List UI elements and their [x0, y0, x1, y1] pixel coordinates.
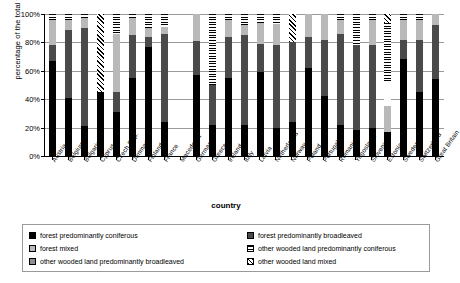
stacked-bar[interactable]	[400, 14, 407, 156]
stacked-bar[interactable]	[416, 14, 423, 156]
bar-slot	[109, 14, 125, 156]
bar-segment	[321, 14, 328, 40]
bar-segment	[145, 14, 152, 28]
stacked-bar[interactable]	[81, 14, 88, 156]
stacked-bar[interactable]	[321, 14, 328, 156]
bar-segment	[49, 45, 56, 61]
bar-segment	[161, 34, 168, 122]
legend-label: forest mixed	[40, 245, 78, 252]
bar-segment	[209, 14, 216, 85]
legend-label: forest predominantly broadleaved	[258, 232, 362, 239]
stacked-bar[interactable]	[161, 14, 168, 156]
legend-label: other wooded land mixed	[258, 258, 336, 265]
bar-slot	[157, 14, 173, 156]
legend-swatch-icon	[247, 258, 254, 265]
y-axis-tick-label: 40%	[16, 95, 40, 104]
bar-slot	[412, 14, 428, 156]
stacked-bar[interactable]	[113, 14, 120, 156]
bar-series-container	[45, 14, 444, 156]
bar-slot	[77, 14, 93, 156]
bar-segment	[209, 85, 216, 125]
stacked-bar[interactable]	[273, 14, 280, 156]
bar-segment	[337, 20, 344, 34]
stacked-bar[interactable]	[145, 14, 152, 156]
bar-segment	[305, 14, 312, 37]
bar-segment	[65, 20, 72, 30]
bar-segment	[384, 81, 391, 107]
legend-item[interactable]: other wooded land predominantly broadlea…	[29, 255, 247, 267]
bar-segment	[432, 25, 439, 79]
stacked-bar[interactable]	[257, 14, 264, 156]
bar-segment	[193, 41, 200, 75]
bar-slot	[316, 14, 332, 156]
legend-item[interactable]: forest predominantly coniferous	[29, 229, 247, 241]
bar-segment	[241, 25, 248, 35]
bar-segment	[257, 23, 264, 44]
bar-segment	[65, 30, 72, 98]
bar-segment	[161, 14, 168, 27]
bar-segment	[384, 106, 391, 132]
bar-segment	[384, 23, 391, 81]
bar-segment	[305, 37, 312, 68]
bar-segment	[129, 18, 136, 35]
legend-item[interactable]: other wooded land predominantly conifero…	[247, 242, 423, 254]
legend-column-right: forest predominantly broadleavedother wo…	[247, 229, 423, 267]
bar-slot	[300, 14, 316, 156]
bar-segment	[416, 40, 423, 93]
stacked-bar[interactable]	[305, 14, 312, 156]
bar-segment	[113, 14, 120, 34]
legend-swatch-icon	[247, 232, 254, 239]
bar-segment	[353, 14, 360, 45]
y-axis-tick-label: 100%	[16, 10, 40, 19]
bar-segment	[81, 28, 88, 126]
bar-segment	[145, 28, 152, 37]
stacked-bar[interactable]	[177, 14, 184, 156]
bar-segment	[113, 92, 120, 112]
bar-segment	[369, 20, 376, 46]
stacked-bar[interactable]	[209, 14, 216, 156]
stacked-bar[interactable]	[97, 14, 104, 156]
legend-item[interactable]: forest predominantly broadleaved	[247, 229, 423, 241]
bar-slot	[61, 14, 77, 156]
bar-segment	[273, 14, 280, 24]
bar-slot	[348, 14, 364, 156]
bar-segment	[432, 14, 439, 25]
bar-segment	[353, 45, 360, 130]
stacked-bar[interactable]	[65, 14, 72, 156]
bar-segment	[416, 20, 423, 40]
x-axis-category-labels: AustriaBelgiumBulgariaCyprusCzech Rep.De…	[44, 159, 443, 204]
legend-item[interactable]: forest mixed	[29, 242, 247, 254]
stacked-bar[interactable]	[353, 14, 360, 156]
bar-segment	[49, 20, 56, 46]
y-axis-tick-label: 0%	[16, 152, 40, 161]
bar-segment	[369, 45, 376, 127]
plot-area	[44, 14, 444, 157]
legend-label: other wooded land predominantly conifero…	[258, 245, 396, 252]
bar-segment	[241, 14, 248, 25]
stacked-bar[interactable]	[337, 14, 344, 156]
stacked-bar[interactable]	[384, 14, 391, 156]
legend-swatch-icon	[29, 258, 36, 265]
bar-slot	[396, 14, 412, 156]
bar-segment	[257, 72, 264, 156]
bar-segment	[273, 24, 280, 45]
stacked-bar[interactable]	[241, 14, 248, 156]
bar-segment	[289, 42, 296, 122]
legend: forest predominantly coniferousforest mi…	[22, 224, 430, 272]
y-axis-tick-label: 20%	[16, 124, 40, 133]
stacked-bar[interactable]	[225, 14, 232, 156]
bar-segment	[193, 14, 200, 41]
bar-segment	[145, 37, 152, 47]
bar-slot	[220, 14, 236, 156]
stacked-bar[interactable]	[49, 14, 56, 156]
bar-segment	[257, 44, 264, 72]
legend-item[interactable]: other wooded land mixed	[247, 255, 423, 267]
y-axis-tick-label: 60%	[16, 67, 40, 76]
bar-slot	[141, 14, 157, 156]
bar-slot	[380, 14, 396, 156]
bar-slot	[236, 14, 252, 156]
bar-slot	[332, 14, 348, 156]
legend-swatch-icon	[247, 245, 254, 252]
bar-segment	[225, 37, 232, 78]
